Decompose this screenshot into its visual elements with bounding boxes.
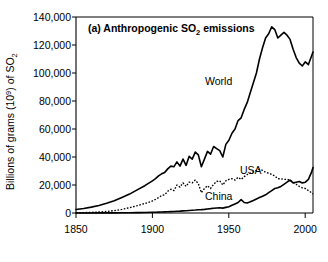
- y-axis-title-mid: ) of SO: [4, 57, 16, 90]
- y-tick-label-40000: 40,000: [39, 151, 71, 163]
- y-axis-title-subscript: 2: [10, 53, 19, 57]
- y-tick-label-80000: 80,000: [39, 95, 71, 107]
- panel-title-head: (a) Anthropogenic SO: [88, 22, 196, 34]
- x-tick-label-1900: 1900: [141, 223, 165, 235]
- y-axis-title-head: Billions of grams (10: [4, 95, 16, 190]
- y-tick-label-60000: 60,000: [39, 123, 71, 135]
- y-axis-ticks: 140,000 120,000 100,000 80,000 60,000 40…: [33, 11, 76, 219]
- x-tick-label-1850: 1850: [64, 223, 88, 235]
- x-tick-label-1950: 1950: [217, 223, 241, 235]
- series-annotation-world: World: [205, 75, 232, 87]
- x-tick-label-2000: 2000: [294, 223, 318, 235]
- x-axis-ticks: 1850 1900 1950 2000: [64, 213, 317, 235]
- y-tick-label-20000: 20,000: [39, 179, 71, 191]
- panel-title-tail: emissions: [200, 22, 254, 34]
- so2-emissions-chart: Billions of grams (109) of SO2 140,000 1…: [0, 0, 328, 262]
- y-tick-label-0: 0: [65, 207, 71, 219]
- plot-background: [76, 17, 313, 213]
- figure-container: Billions of grams (109) of SO2 140,000 1…: [0, 0, 328, 262]
- y-tick-label-100000: 100,000: [33, 67, 71, 79]
- y-tick-label-120000: 120,000: [33, 39, 71, 51]
- y-axis-title: Billions of grams (109) of SO2: [4, 53, 19, 190]
- series-annotation-usa: USA: [240, 164, 262, 176]
- y-tick-label-140000: 140,000: [33, 11, 71, 23]
- series-annotation-china: China: [205, 190, 233, 202]
